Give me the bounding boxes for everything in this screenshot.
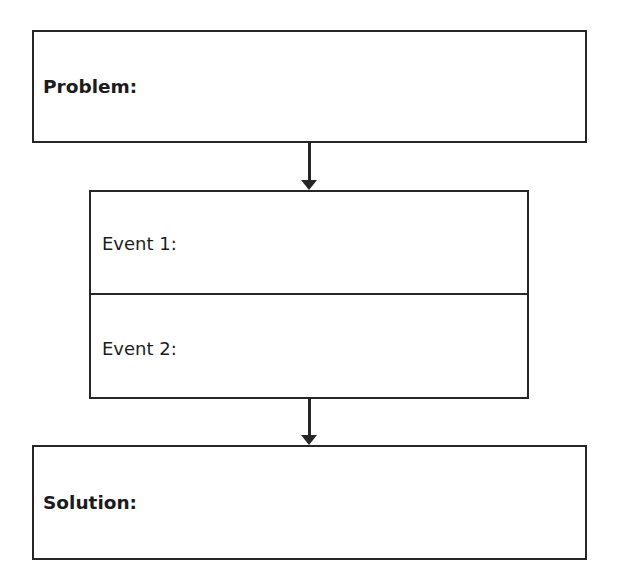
solution-box: Solution: [32,445,587,560]
problem-label: Problem: [43,77,137,97]
event-1-label: Event 1: [102,234,177,254]
arrow-head [301,435,317,445]
arrow-shaft [308,398,311,436]
arrow-head [301,180,317,190]
problem-box: Problem: [32,30,587,143]
event-divider [91,293,527,295]
event-2-label: Event 2: [102,339,177,359]
solution-label: Solution: [43,493,137,513]
events-box: Event 1: Event 2: [89,190,529,399]
arrow-shaft [308,142,311,182]
